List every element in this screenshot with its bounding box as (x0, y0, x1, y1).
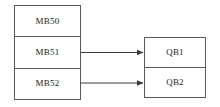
cell-label: MB51 (36, 48, 60, 57)
cell-label: MB52 (36, 79, 60, 88)
cell-label: MB50 (36, 17, 60, 26)
cell-label: QB1 (166, 48, 184, 57)
memory-byte-cell-mb51[interactable]: MB51 (15, 36, 80, 67)
output-byte-cell-qb2[interactable]: QB2 (145, 67, 205, 97)
output-byte-block: QB1 QB2 (144, 37, 206, 98)
memory-byte-block: MB50 MB51 MB52 (14, 5, 81, 100)
memory-byte-cell-mb52[interactable]: MB52 (15, 68, 80, 99)
cell-label: QB2 (166, 78, 184, 87)
memory-byte-cell-mb50[interactable]: MB50 (15, 6, 80, 36)
output-byte-cell-qb1[interactable]: QB1 (145, 38, 205, 67)
diagram-canvas: MB50 MB51 MB52 QB1 QB2 (0, 0, 220, 107)
